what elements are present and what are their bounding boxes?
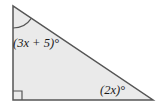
triangle-shape [13,6,153,100]
triangle-figure-svg: (3x + 5)° (2x)° [0,0,159,107]
triangle-diagram: (3x + 5)° (2x)° [0,0,159,107]
top-angle-label: (3x + 5)° [13,36,59,50]
bottom-right-angle-label: (2x)° [100,83,125,97]
